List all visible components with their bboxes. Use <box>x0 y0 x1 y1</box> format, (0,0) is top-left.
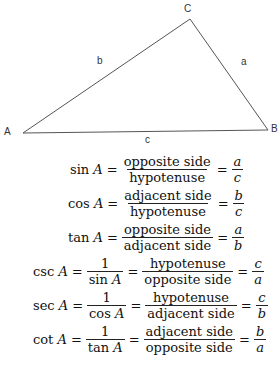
ratio-denominator: opposite side <box>144 339 235 355</box>
ratio-numerator: adjacent side <box>122 188 213 203</box>
ratio-numerator: hypotenuse <box>148 256 228 271</box>
equals-sign: = <box>127 264 138 279</box>
result-denominator: a <box>252 271 264 287</box>
vertex-label-a: A <box>4 127 11 137</box>
result-denominator: b <box>256 305 268 321</box>
triangle-abc <box>23 19 268 133</box>
equals-sign: = <box>217 230 228 245</box>
result-fraction: c a <box>252 256 264 287</box>
reciprocal-function: tan <box>88 340 109 355</box>
ratio-numerator: opposite side <box>122 222 213 237</box>
function-name: sec <box>33 298 55 313</box>
formula-tan: tan A = opposite side adjacent side = a … <box>68 220 244 254</box>
equals-sign: = <box>130 298 141 313</box>
ratio-numerator: adjacent side <box>144 324 235 339</box>
ratio-numerator: hypotenuse <box>151 290 231 305</box>
formula-cot: cot A = 1 tan A = adjacent side opposite… <box>33 322 266 356</box>
reciprocal-numerator: 1 <box>99 256 111 271</box>
reciprocal-denominator: tan A <box>86 339 125 355</box>
function-name: cot <box>33 332 53 347</box>
equals-sign: = <box>218 196 229 211</box>
formula-sin: sin A = opposite side hypotenuse = a c <box>70 152 243 186</box>
vertex-label-b: B <box>271 124 278 134</box>
angle-variable: A <box>94 230 103 245</box>
reciprocal-fraction: 1 sin A <box>87 256 124 287</box>
angle-variable: A <box>93 162 102 177</box>
equals-sign: = <box>239 332 250 347</box>
function-name: tan <box>68 230 89 245</box>
ratio-fraction: adjacent side hypotenuse <box>122 188 213 219</box>
reciprocal-numerator: 1 <box>101 290 113 305</box>
equals-sign: = <box>71 332 82 347</box>
angle-variable: A <box>113 340 122 355</box>
result-numerator: b <box>233 188 245 203</box>
ratio-denominator: opposite side <box>142 271 233 287</box>
formula-cos: cos A = adjacent side hypotenuse = b c <box>68 186 245 220</box>
equals-sign: = <box>72 264 83 279</box>
equals-sign: = <box>107 162 118 177</box>
ratio-fraction: opposite side hypotenuse <box>122 154 213 185</box>
equals-sign: = <box>107 196 118 211</box>
equals-sign: = <box>107 230 118 245</box>
equals-sign: = <box>72 298 83 313</box>
reciprocal-function: sin <box>89 272 108 287</box>
ratio-fraction: hypotenuse opposite side <box>142 256 233 287</box>
ratio-denominator: adjacent side <box>145 305 236 321</box>
side-label-b: b <box>97 56 103 66</box>
ratio-numerator: opposite side <box>122 154 213 169</box>
equals-sign: = <box>241 298 252 313</box>
equals-sign: = <box>237 264 248 279</box>
equals-sign: = <box>129 332 140 347</box>
reciprocal-fraction: 1 cos A <box>87 290 126 321</box>
angle-variable: A <box>57 332 66 347</box>
reciprocal-function: cos <box>89 306 111 321</box>
ratio-fraction: adjacent side opposite side <box>144 324 235 355</box>
side-label-a: a <box>241 57 247 67</box>
ratio-denominator: hypotenuse <box>127 169 207 185</box>
function-name: sin <box>70 162 89 177</box>
reciprocal-fraction: 1 tan A <box>86 324 125 355</box>
result-denominator: c <box>233 203 244 219</box>
result-numerator: c <box>252 256 263 271</box>
ratio-denominator: hypotenuse <box>128 203 208 219</box>
result-numerator: b <box>254 324 266 339</box>
function-name: cos <box>68 196 90 211</box>
result-denominator: b <box>232 237 244 253</box>
reciprocal-denominator: sin A <box>87 271 124 287</box>
angle-variable: A <box>59 298 68 313</box>
result-numerator: a <box>232 154 244 169</box>
ratio-fraction: hypotenuse adjacent side <box>145 290 236 321</box>
result-fraction: a b <box>232 222 244 253</box>
ratio-denominator: adjacent side <box>122 237 213 253</box>
result-fraction: b a <box>254 324 266 355</box>
result-denominator: a <box>254 339 266 355</box>
side-label-c: c <box>145 135 150 145</box>
angle-variable: A <box>58 264 67 279</box>
result-fraction: c b <box>256 290 268 321</box>
angle-variable: A <box>94 196 103 211</box>
formula-sec: sec A = 1 cos A = hypotenuse adjacent si… <box>33 288 268 322</box>
function-name: csc <box>33 264 54 279</box>
result-fraction: a c <box>232 154 244 185</box>
result-numerator: c <box>256 290 267 305</box>
reciprocal-numerator: 1 <box>99 324 111 339</box>
result-fraction: b c <box>233 188 245 219</box>
angle-variable: A <box>112 272 121 287</box>
triangle-diagram <box>0 0 279 150</box>
angle-variable: A <box>115 306 124 321</box>
ratio-fraction: opposite side adjacent side <box>122 222 213 253</box>
equals-sign: = <box>217 162 228 177</box>
result-denominator: c <box>232 169 243 185</box>
formula-csc: csc A = 1 sin A = hypotenuse opposite si… <box>33 254 264 288</box>
result-numerator: a <box>232 222 244 237</box>
vertex-label-c: C <box>184 4 191 14</box>
reciprocal-denominator: cos A <box>87 305 126 321</box>
